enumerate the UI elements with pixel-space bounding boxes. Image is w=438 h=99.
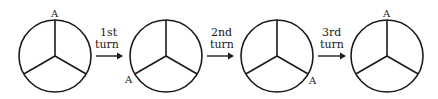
wheel-stage-4: A <box>351 8 423 92</box>
spoke <box>246 56 277 74</box>
spoke <box>356 56 387 74</box>
arrow-1st-turn: 1st turn <box>95 26 123 60</box>
wheel-stage-1: A <box>19 8 91 92</box>
spoke <box>55 56 86 74</box>
arrow-label-line2: turn <box>320 38 344 51</box>
wheel-stage-2: A <box>124 20 202 92</box>
arrow-2nd-turn: 2nd turn <box>207 26 234 60</box>
spoke <box>277 56 308 74</box>
arrow-head-icon <box>228 53 234 60</box>
arrow-head-icon <box>340 53 346 60</box>
wheel-stage-3: A <box>241 20 317 92</box>
arrow-label-line2: turn <box>210 38 234 51</box>
arrow-3rd-turn: 3rd turn <box>318 26 346 60</box>
wheel-rotation-diagram: A 1st turn A 2nd turn A 3rd turn <box>0 0 438 99</box>
spoke <box>135 56 166 74</box>
marker-a: A <box>382 8 391 19</box>
arrow-head-icon <box>117 53 123 60</box>
marker-a: A <box>50 8 59 19</box>
arrow-label-line2: turn <box>95 38 119 51</box>
spoke <box>24 56 55 74</box>
spoke <box>387 56 418 74</box>
marker-a: A <box>308 75 317 86</box>
spoke <box>166 56 197 74</box>
marker-a: A <box>124 74 133 85</box>
